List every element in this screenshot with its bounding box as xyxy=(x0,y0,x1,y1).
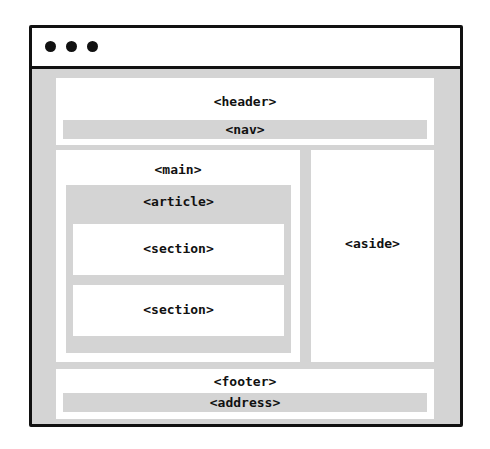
aside-block: <aside> xyxy=(311,150,434,362)
nav-label: <nav> xyxy=(63,122,427,138)
section-label: <section> xyxy=(73,241,284,257)
window-control-dot-icon xyxy=(87,41,98,52)
header-block: <header> <nav> xyxy=(56,78,434,145)
article-label: <article> xyxy=(66,194,291,210)
nav-block: <nav> xyxy=(63,120,427,139)
aside-label: <aside> xyxy=(311,236,434,252)
header-label: <header> xyxy=(56,94,434,110)
footer-label: <footer> xyxy=(56,374,434,390)
window-control-dot-icon xyxy=(45,41,56,52)
article-block: <article> <section> <section> xyxy=(66,185,291,353)
section-block: <section> xyxy=(73,285,284,336)
main-label: <main> xyxy=(56,162,300,178)
footer-block: <footer> <address> xyxy=(56,369,434,419)
section-block: <section> xyxy=(73,224,284,275)
window-control-dot-icon xyxy=(66,41,77,52)
main-block: <main> <article> <section> <section> xyxy=(56,150,300,362)
section-label: <section> xyxy=(73,302,284,318)
browser-window: <header> <nav> <main> <article> <section… xyxy=(29,25,463,427)
address-label: <address> xyxy=(63,395,427,411)
address-block: <address> xyxy=(63,393,427,412)
title-bar xyxy=(32,28,460,69)
